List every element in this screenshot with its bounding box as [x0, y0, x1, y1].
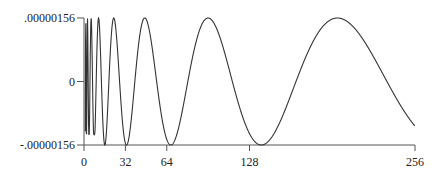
- x-axis: 03264128256: [81, 145, 424, 169]
- data-series-line: [85, 18, 415, 145]
- x-tick-label: 64: [161, 155, 173, 169]
- line-chart: .000001560-.00000156 03264128256: [0, 0, 447, 177]
- x-tick-label: 256: [406, 155, 424, 169]
- y-axis: .000001560-.00000156: [20, 11, 84, 152]
- x-tick-label: 0: [81, 155, 87, 169]
- x-tick-label: 32: [119, 155, 131, 169]
- x-tick-label: 128: [241, 155, 259, 169]
- y-tick-label: -.00000156: [20, 138, 75, 152]
- y-tick-label: .00000156: [24, 11, 75, 25]
- y-tick-label: 0: [69, 75, 75, 89]
